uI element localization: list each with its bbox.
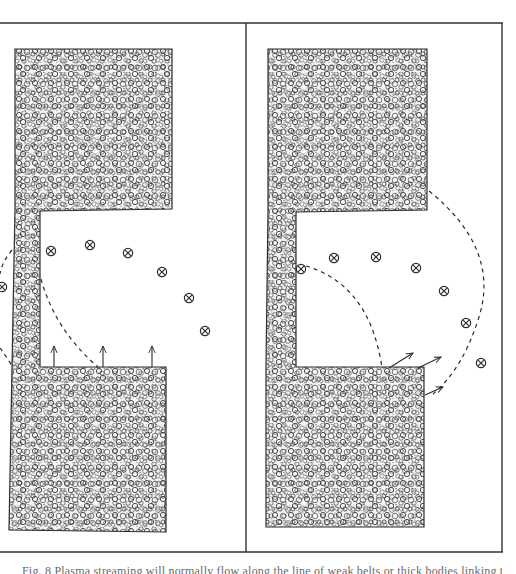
left-panel xyxy=(0,49,210,532)
marker-icon xyxy=(296,264,305,273)
left-markers xyxy=(46,240,209,335)
left-edge-marker xyxy=(0,282,7,291)
marker-icon xyxy=(371,252,380,261)
left-edge-dashed-arc xyxy=(0,250,12,274)
arrow-diagonal-icon xyxy=(418,357,441,368)
marker-icon xyxy=(123,248,132,257)
marker-icon xyxy=(184,293,193,302)
marker-icon xyxy=(85,240,94,249)
marker-icon xyxy=(46,246,55,255)
marker-icon xyxy=(439,286,448,295)
right-panel xyxy=(266,49,486,527)
right-outer-dashed-arc xyxy=(429,191,484,395)
left-inner-dashed-arc xyxy=(41,279,98,367)
marker-icon xyxy=(411,263,420,272)
figure-caption: Fig. 8 Plasma streaming will normally fl… xyxy=(22,562,502,574)
arrow-diagonal-icon xyxy=(389,353,413,368)
marker-icon xyxy=(461,318,470,327)
marker-icon xyxy=(476,358,485,367)
marker-icon xyxy=(157,267,166,276)
right-markers xyxy=(296,252,485,367)
right-inner-dashed-arc xyxy=(306,266,382,368)
figure-illustration xyxy=(0,0,516,574)
marker-icon xyxy=(329,253,338,262)
marker-icon xyxy=(200,326,209,335)
left-arrows xyxy=(54,346,152,367)
